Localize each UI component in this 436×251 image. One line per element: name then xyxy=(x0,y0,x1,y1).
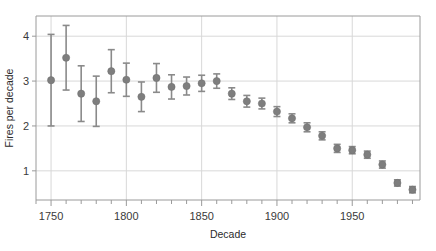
data-point xyxy=(228,90,235,97)
fires-per-decade-chart: 123417501800185019001950DecadeFires per … xyxy=(0,0,436,251)
chart-canvas: 123417501800185019001950DecadeFires per … xyxy=(0,0,436,251)
data-series xyxy=(47,25,416,193)
x-axis-title: Decade xyxy=(210,228,246,240)
data-point xyxy=(47,77,54,84)
x-tick-label: 1850 xyxy=(189,210,213,222)
y-axis-title: Fires per decade xyxy=(3,68,15,147)
data-point xyxy=(108,68,115,75)
data-point xyxy=(78,90,85,97)
data-point xyxy=(364,151,371,158)
data-point xyxy=(93,98,100,105)
data-point xyxy=(409,186,416,193)
data-point xyxy=(258,100,265,107)
data-point xyxy=(303,124,310,131)
data-point xyxy=(138,93,145,100)
y-tick-label: 1 xyxy=(23,165,29,177)
x-tick-label: 1950 xyxy=(340,210,364,222)
data-point xyxy=(213,77,220,84)
y-tick-label: 3 xyxy=(23,75,29,87)
x-tick-label: 1900 xyxy=(265,210,289,222)
data-point xyxy=(394,179,401,186)
y-tick-label: 2 xyxy=(23,120,29,132)
data-point xyxy=(288,115,295,122)
data-point xyxy=(63,54,70,61)
data-point xyxy=(123,76,130,83)
data-point xyxy=(334,145,341,152)
data-point xyxy=(153,74,160,81)
data-point xyxy=(183,82,190,89)
data-point xyxy=(349,147,356,154)
x-tick-label: 1800 xyxy=(114,210,138,222)
data-point xyxy=(273,108,280,115)
data-point xyxy=(319,132,326,139)
y-tick-label: 4 xyxy=(23,30,29,42)
data-point xyxy=(243,98,250,105)
x-tick-label: 1750 xyxy=(39,210,63,222)
data-point xyxy=(198,80,205,87)
data-point xyxy=(168,83,175,90)
data-point xyxy=(379,161,386,168)
